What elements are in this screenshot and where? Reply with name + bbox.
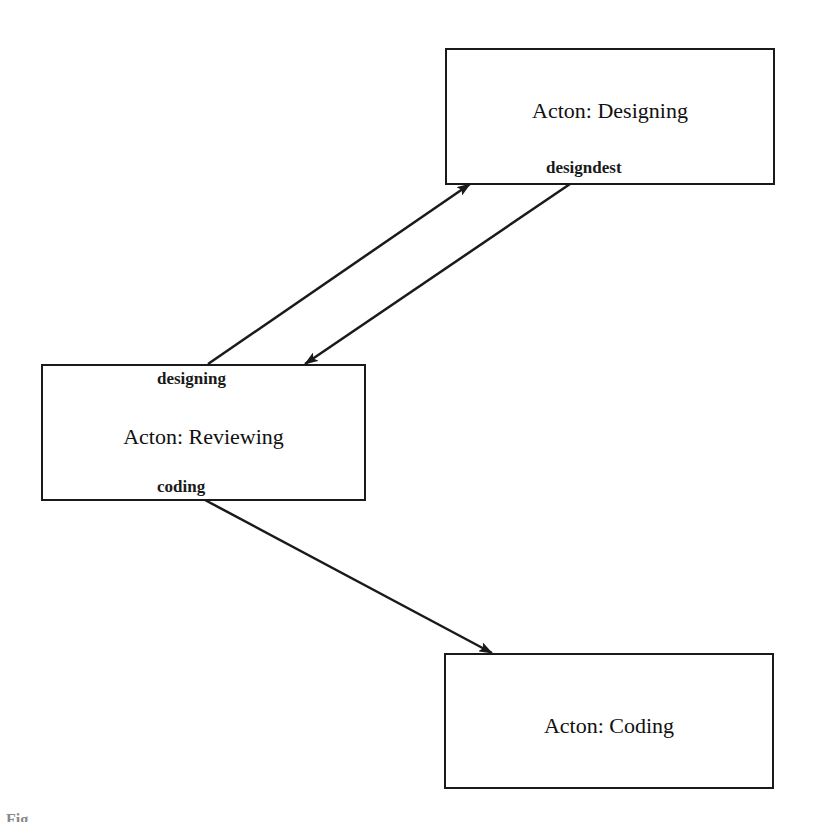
port-designing-label: designing: [157, 369, 226, 389]
edge-designing-to-reviewing: [305, 184, 570, 364]
node-designing: Acton: Designing designdest: [445, 48, 775, 185]
node-designing-title: Acton: Designing: [447, 98, 773, 124]
figure-caption: Fig.: [6, 812, 32, 822]
port-coding-label: coding: [157, 477, 205, 497]
node-coding-title: Acton: Coding: [446, 713, 772, 739]
port-designdest-label: designdest: [546, 158, 622, 178]
node-reviewing: designing Acton: Reviewing coding: [41, 364, 366, 501]
edge-reviewing-to-designing: [208, 184, 470, 364]
edge-reviewing-to-coding: [205, 500, 492, 653]
node-coding: Acton: Coding: [444, 653, 774, 789]
diagram-canvas: Acton: Designing designdest designing Ac…: [0, 0, 813, 822]
node-reviewing-title: Acton: Reviewing: [43, 424, 364, 450]
